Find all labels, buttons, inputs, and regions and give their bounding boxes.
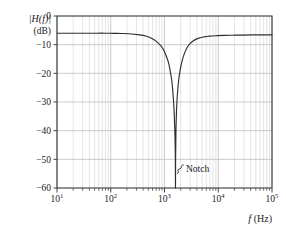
y-tick-label: −20: [36, 69, 51, 79]
y-tick-label: −40: [36, 126, 51, 136]
y-tick-label: −60: [36, 183, 51, 193]
x-axis-title: f (Hz): [248, 213, 272, 225]
y-tick-label: −50: [36, 155, 51, 165]
y-axis-title-line1: |H(f)|: [29, 13, 51, 25]
notch-annotation-label: Notch: [186, 164, 209, 174]
x-axis-title-unit: (Hz): [254, 213, 272, 225]
frequency-response-chart: 0−10−20−30−40−50−60 101102103104105 |H(f…: [0, 0, 286, 234]
y-tick-label: −10: [36, 40, 51, 50]
y-tick-label: −30: [36, 97, 51, 107]
notch-filter-response-figure: 0−10−20−30−40−50−60 101102103104105 |H(f…: [0, 0, 286, 234]
y-axis-title-line2: (dB): [34, 26, 51, 37]
